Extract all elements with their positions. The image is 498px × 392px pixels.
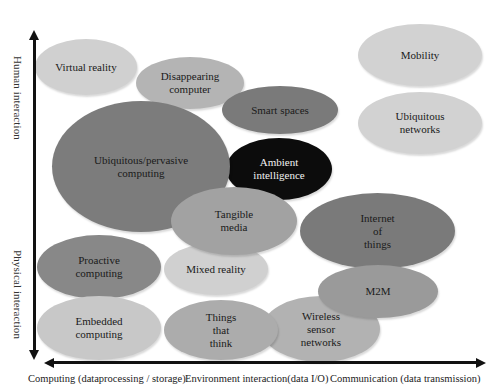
- arrow-right-icon: [476, 358, 486, 368]
- concept-embedded-computing: Embedded computing: [37, 296, 161, 360]
- concept-things-that-think: Things that think: [164, 300, 278, 360]
- y-axis-label-human-interaction: Human interaction: [12, 56, 24, 140]
- concept-virtual-reality: Virtual reality: [35, 39, 137, 95]
- x-axis-label-environment-interaction: Environment interaction(data I/O): [185, 373, 328, 384]
- arrow-up-icon: [29, 30, 39, 40]
- x-axis-label-communication: Communication (data transmission): [330, 373, 480, 384]
- concept-diagram: Virtual reality Disappearing computer Mo…: [0, 0, 498, 392]
- x-axis-label-computing: Computing (dataprocessing / storage): [28, 373, 186, 384]
- vertical-axis: [33, 38, 36, 355]
- concept-internet-of-things: Internet of things: [300, 193, 455, 269]
- concept-proactive-computing: Proactive computing: [37, 235, 161, 299]
- concept-tangible-media: Tangible media: [171, 187, 297, 255]
- arrow-down-icon: [29, 350, 39, 360]
- concept-mobility: Mobility: [358, 24, 482, 86]
- concept-smart-spaces: Smart spaces: [222, 86, 338, 134]
- concept-ubiquitous-networks: Ubiquitous networks: [358, 92, 482, 154]
- horizontal-axis: [50, 361, 477, 364]
- y-axis-label-physical-interaction: Physical interaction: [12, 250, 24, 339]
- arrow-left-icon: [44, 358, 54, 368]
- concept-m2m: M2M: [318, 265, 438, 318]
